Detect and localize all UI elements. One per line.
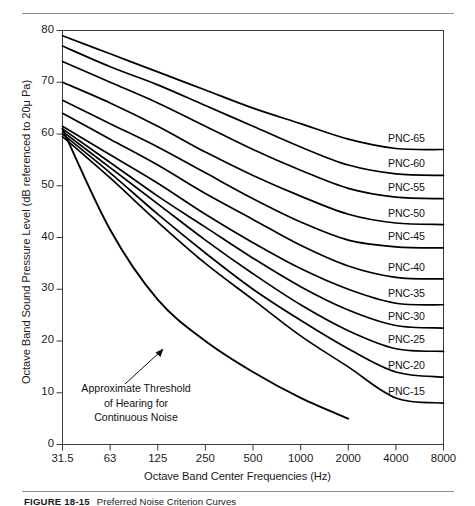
pnc-curve-label: PNC-40 <box>388 261 425 273</box>
x-axis-ticks <box>63 445 444 451</box>
threshold-annotation-line-2: of Hearing for <box>56 396 216 411</box>
threshold-annotation-text: Approximate Threshold of Hearing for Con… <box>56 381 216 425</box>
pnc-curve-label: PNC-25 <box>388 333 425 345</box>
pnc-curve-label: PNC-15 <box>388 385 425 397</box>
pnc-curve-label: PNC-35 <box>388 287 425 299</box>
figure-caption-number: FIGURE 18-15 <box>24 496 90 506</box>
pnc-chart-plot <box>0 0 475 506</box>
figure-bottom-rule <box>22 491 454 492</box>
pnc-curve-label: PNC-60 <box>388 157 425 169</box>
y-axis-tick-label: 40 <box>20 230 54 242</box>
x-axis-title: Octave Band Center Frequencies (Hz) <box>0 470 475 482</box>
y-axis-tick-label: 10 <box>20 385 54 397</box>
pnc-curve-label: PNC-30 <box>388 310 425 322</box>
threshold-annotation-line-3: Continuous Noise <box>56 410 216 425</box>
y-axis-tick-label: 80 <box>20 23 54 35</box>
y-axis-tick-label: 60 <box>20 126 54 138</box>
figure-caption-text: Preferred Noise Criterion Curves <box>90 496 236 506</box>
x-axis-tick-label: 8000 <box>414 452 474 464</box>
threshold-annotation-line-1: Approximate Threshold <box>56 381 216 396</box>
y-axis-tick-label: 0 <box>20 437 54 449</box>
pnc-curve-label: PNC-50 <box>388 207 425 219</box>
figure-caption: FIGURE 18-15Preferred Noise Criterion Cu… <box>24 496 464 506</box>
y-axis-tick-label: 30 <box>20 281 54 293</box>
y-axis-tick-label: 20 <box>20 333 54 345</box>
figure-root: Octave Band Sound Pressure Level (dB ref… <box>0 0 475 506</box>
pnc-curve-label: PNC-45 <box>388 230 425 242</box>
pnc-curve-label: PNC-20 <box>388 359 425 371</box>
pnc-curve-label: PNC-55 <box>388 181 425 193</box>
y-axis-tick-label: 70 <box>20 74 54 86</box>
pnc-curve-label: PNC-65 <box>388 132 425 144</box>
y-axis-tick-label: 50 <box>20 178 54 190</box>
